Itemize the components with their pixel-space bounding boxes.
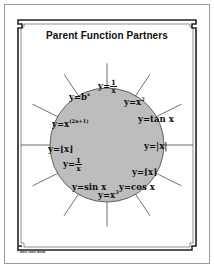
label-ceiling: y=⌈x⌉ [132,168,157,177]
spoke-line [135,193,151,216]
label-cosine: y=cos x [119,183,155,192]
label-floor: y=⌊x⌋ [48,145,73,154]
page-title: Parent Function Partners [0,30,214,41]
spoke-line [33,173,60,186]
spoke-line [135,74,151,97]
label-cubic: y=x3 [98,191,119,200]
label-quadratic: y=x2 [124,98,145,107]
publisher-credit: © Mark Twain Media [17,250,46,254]
label-odd-power: y=x(2n+1) [52,120,89,129]
spoke-line [155,173,182,186]
label-reciprocal-bottom: y=1x [63,157,82,172]
label-absolute-value: y=|x| [144,142,167,151]
label-tangent: y=tan x [138,115,174,124]
label-exponential: y=bx [69,93,90,102]
label-sine: y=sin x [72,183,106,192]
spoke-line [33,104,60,117]
label-reciprocal-top: y=1x [98,79,117,94]
spoke-line [64,193,80,216]
